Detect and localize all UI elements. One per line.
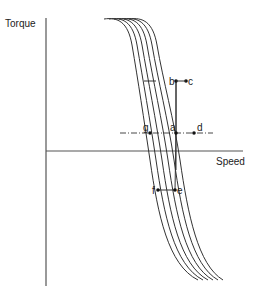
curve-4 [119, 19, 213, 280]
trajectory [144, 81, 176, 190]
point-d [192, 131, 196, 135]
curve-2 [109, 19, 203, 280]
point-f [156, 188, 160, 192]
curve-3 [114, 19, 208, 280]
points [148, 79, 196, 192]
curve-5 [124, 19, 218, 280]
label-b: b [169, 76, 175, 87]
y-axis-label: Torque [5, 18, 36, 29]
x-axis-label: Speed [216, 156, 245, 167]
label-g: g [143, 122, 149, 133]
point-g [148, 131, 152, 135]
curve-1 [104, 19, 198, 280]
label-a: a [170, 122, 176, 133]
label-d: d [197, 122, 203, 133]
torque-speed-curves [104, 19, 223, 280]
label-f: f [152, 185, 155, 196]
label-c: c [188, 76, 193, 87]
label-e: e [177, 185, 183, 196]
torque-speed-diagram: Torque Speed b c g a d f e [0, 0, 258, 299]
